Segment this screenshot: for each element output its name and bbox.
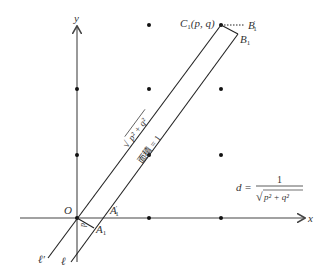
svg-text:√: √: [256, 190, 263, 204]
svg-text:1: 1: [277, 174, 282, 185]
x-axis-label: x: [307, 212, 313, 224]
label-a1-prime: A′1: [109, 204, 119, 218]
distance-formula: d = 1 √ p² + q²: [236, 174, 303, 204]
area-label: 面積 = 1: [135, 133, 163, 165]
label-line-l-prime: ℓ′: [38, 253, 46, 265]
label-b1-prime: B′1: [248, 19, 257, 33]
svg-text:p² + q²: p² + q²: [263, 192, 289, 202]
origin-label: O: [64, 204, 72, 216]
svg-text:d =: d =: [236, 181, 252, 193]
label-a1: A1: [95, 223, 107, 237]
label-b1: B1: [240, 33, 251, 47]
svg-text:面積 = 1: 面積 = 1: [135, 133, 163, 165]
svg-text:p² + q²: p² + q²: [126, 116, 150, 143]
label-line-l: ℓ: [61, 255, 66, 267]
label-c1: C1(p, q): [180, 17, 215, 31]
label-d-small: d: [79, 223, 88, 228]
lattice-strip-diagram: x y O C1(p, q) B′1 B1 A′1 A1 d ℓ′ ℓ √ p²…: [0, 0, 335, 277]
y-axis-label: y: [73, 12, 79, 24]
segment-c1-b1: [221, 25, 238, 34]
